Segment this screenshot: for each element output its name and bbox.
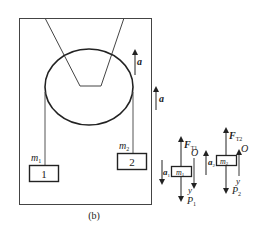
fbd2-weight-label: P2 [231,185,241,197]
fbd2-axis-label: y [235,176,240,186]
free-body-2: FT2 P2 m2 a2 O y [206,130,248,197]
pulley-accel-label: a [137,56,142,67]
fbd1-axis-label: y [187,185,192,195]
fbd1-origin-label: O [191,147,198,158]
atwood-elevator-diagram: 1 m1 2 m2 a a (b) FT1 P1 m1 a1 O y FT2 P… [0,0,262,233]
mass-2-label: m2 [119,140,129,152]
fbd2-origin-label: O [241,143,248,154]
fbd1-weight-label: P1 [186,195,196,207]
mass-1-label: m1 [31,152,41,164]
pulley-support [45,18,124,86]
fbd2-accel-label: a2 [208,157,216,168]
elevator-accel-label: a [159,93,164,104]
figure-caption: (b) [88,210,100,222]
free-body-1: FT1 P1 m1 a1 O y [162,139,198,207]
mass-1-box-label: 1 [41,168,47,180]
pulley-wheel [45,49,133,125]
fbd2-tension-label: FT2 [228,130,242,142]
fbd1-accel-label: a1 [163,167,171,178]
mass-2-box-label: 2 [129,156,135,168]
